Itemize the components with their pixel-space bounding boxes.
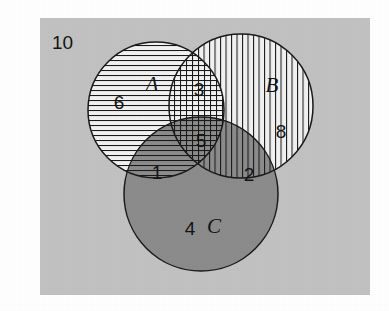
region-value-a-and-b: 3: [194, 79, 205, 100]
venn-diagram-figure: 10 A B C 6 8 4 3 1 2 5: [0, 0, 389, 311]
region-value-b-only: 8: [276, 121, 287, 142]
set-label-c: C: [207, 214, 222, 238]
problem-number-label: 10: [52, 32, 73, 53]
set-label-a: A: [144, 72, 159, 96]
region-value-c-only: 4: [185, 218, 196, 239]
venn-diagram-canvas: 10 A B C 6 8 4 3 1 2 5: [0, 0, 389, 311]
set-label-b: B: [266, 73, 279, 97]
region-value-a-only: 6: [114, 92, 125, 113]
region-value-a-and-c: 1: [152, 162, 163, 183]
region-value-a-and-b-and-c: 5: [196, 130, 207, 151]
region-value-b-and-c: 2: [244, 164, 255, 185]
